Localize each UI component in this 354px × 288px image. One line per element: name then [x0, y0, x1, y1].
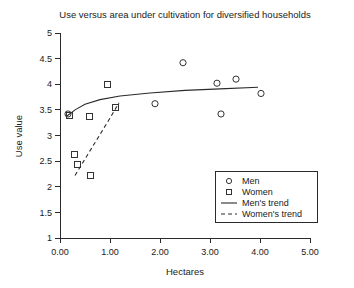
y-tick-label: 3 [47, 131, 52, 141]
data-point-women [104, 81, 110, 87]
y-tick-label: 3.5 [39, 105, 52, 115]
y-tick-label: 5 [47, 28, 52, 38]
x-axis-title: Hectares [166, 266, 204, 277]
mens-trend-line [67, 87, 258, 116]
trend-lines [67, 87, 258, 175]
data-point-men [214, 80, 220, 86]
y-axis: 11.522.533.544.55 Use value [13, 28, 60, 243]
y-tick-label: 4.5 [39, 54, 52, 64]
legend-label: Women's trend [242, 209, 302, 219]
x-tick-label: 0.00 [51, 247, 69, 257]
legend-label: Men's trend [242, 198, 289, 208]
data-point-women [74, 161, 80, 167]
chart-figure: Use versus area under cultivation for di… [0, 0, 354, 288]
data-point-men [180, 60, 186, 66]
data-point-men [152, 101, 158, 107]
y-tick-label: 1 [47, 233, 52, 243]
x-axis-ticks: 0.001.002.003.004.005.00 [51, 238, 319, 257]
y-tick-label: 2 [47, 182, 52, 192]
data-point-women [87, 172, 93, 178]
data-point-men [258, 90, 264, 96]
x-tick-label: 1.00 [101, 247, 119, 257]
data-point-women [86, 113, 92, 119]
y-tick-label: 2.5 [39, 156, 52, 166]
x-tick-label: 2.00 [151, 247, 169, 257]
womens-trend-line [75, 103, 119, 176]
x-axis: 0.001.002.003.004.005.00 Hectares [51, 238, 319, 277]
data-point-women [71, 152, 77, 158]
x-tick-label: 5.00 [301, 247, 319, 257]
y-axis-title: Use value [13, 115, 24, 157]
y-axis-ticks: 11.522.533.544.55 [39, 28, 60, 243]
data-point-men [218, 111, 224, 117]
y-tick-label: 1.5 [39, 208, 52, 218]
data-point-women [112, 105, 118, 111]
data-point-men [233, 76, 239, 82]
chart-title: Use versus area under cultivation for di… [59, 9, 311, 20]
legend-label: Men [242, 176, 260, 186]
data-points [65, 60, 264, 179]
chart-legend: MenWomenMen's trendWomen's trend [215, 171, 317, 222]
x-tick-label: 4.00 [251, 247, 269, 257]
x-tick-label: 3.00 [201, 247, 219, 257]
legend-label: Women [242, 187, 273, 197]
scatter-plot: Use versus area under cultivation for di… [0, 0, 354, 288]
y-tick-label: 4 [47, 79, 52, 89]
